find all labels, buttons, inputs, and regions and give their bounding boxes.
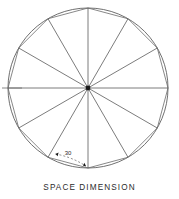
chord-line bbox=[88, 157, 128, 168]
radial-spoke bbox=[88, 19, 128, 88]
chord-line bbox=[8, 88, 19, 128]
radial-spoke bbox=[88, 88, 128, 157]
chord-line bbox=[48, 8, 88, 19]
chord-line bbox=[157, 48, 168, 88]
chord-line bbox=[19, 128, 48, 157]
radial-spoke bbox=[48, 19, 88, 88]
space-dimension-diagram: 30 SPACE DIMENSION bbox=[0, 0, 179, 199]
figure-caption: SPACE DIMENSION bbox=[43, 183, 135, 192]
chord-line bbox=[157, 88, 168, 128]
figure-container: 30 SPACE DIMENSION bbox=[0, 0, 179, 199]
angle-label: 30 bbox=[65, 150, 72, 156]
radial-spoke bbox=[88, 48, 157, 88]
chord-line bbox=[8, 48, 19, 88]
radial-spoke bbox=[19, 88, 88, 128]
radial-spoke bbox=[88, 88, 157, 128]
chord-line bbox=[19, 19, 48, 48]
chord-line bbox=[88, 8, 128, 19]
center-hub bbox=[86, 86, 91, 91]
radial-spoke bbox=[48, 88, 88, 157]
chord-line bbox=[48, 157, 88, 168]
chord-line bbox=[128, 128, 157, 157]
angle-arrow-start-icon bbox=[56, 153, 59, 157]
chord-line bbox=[128, 19, 157, 48]
radial-spoke bbox=[19, 48, 88, 88]
